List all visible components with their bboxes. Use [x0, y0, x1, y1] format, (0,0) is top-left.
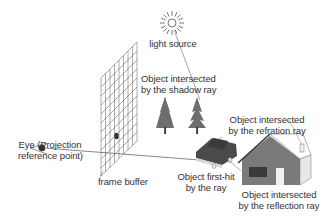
frame-buffer-label: frame buffer: [96, 176, 150, 187]
light-source-label: light source: [148, 38, 198, 49]
refraction-object-label-line2: by the refration ray: [220, 125, 314, 136]
tree-icon: [156, 97, 174, 134]
pixel-hit-marker: [114, 133, 118, 139]
shadow-object-label-line1: Object intersected: [141, 73, 221, 84]
car-icon: [196, 138, 237, 169]
tree-icon: [188, 97, 206, 134]
reflection-ray: [226, 158, 241, 171]
first-hit-label-line1: Object first-hit: [176, 171, 236, 182]
reflection-object-label-line2: by the reflection ray: [229, 200, 329, 211]
refraction-object-label-line1: Object intersected: [222, 114, 312, 125]
eye-label-line1: Eye (Projection: [18, 139, 82, 150]
first-hit-label-line2: by the ray: [176, 182, 236, 193]
frame-buffer-grid: [101, 42, 137, 176]
eye-label-line2: reference point): [18, 150, 82, 161]
reflection-object-label-line1: Object intersected: [233, 189, 325, 200]
sun-icon: [160, 11, 184, 35]
shadow-object-label-line2: by the shadow ray: [141, 84, 221, 95]
